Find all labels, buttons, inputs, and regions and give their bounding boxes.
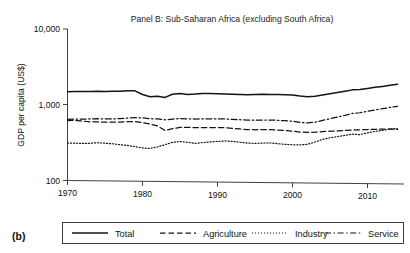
chart-legend: Total Agriculture Industry Service: [63, 223, 404, 244]
legend-label-agriculture: Agriculture: [203, 229, 247, 239]
x-tick-label-1980: 1980: [133, 189, 152, 199]
x-tick-label-2010: 2010: [358, 191, 377, 201]
x-axis-line: [68, 181, 405, 185]
y-axis-title: GDP per capita (US$): [16, 63, 26, 147]
x-tick-label-2000: 2000: [283, 190, 302, 200]
series-group: [68, 84, 398, 148]
y-tick-label-1000: 1,000: [38, 100, 60, 110]
series-line-industry: [68, 128, 398, 148]
figure-panel-b: Panel B: Sub-Saharan Africa (excluding S…: [0, 0, 410, 253]
panel-title: Panel B: Sub-Saharan Africa (excluding S…: [131, 14, 334, 24]
gdp-per-capita-chart: Panel B: Sub-Saharan Africa (excluding S…: [0, 0, 410, 253]
legend-label-service: Service: [368, 229, 399, 239]
y-tick-marks: [63, 29, 68, 181]
x-tick-label-1970: 1970: [58, 188, 77, 198]
y-tick-label-10000: 10,000: [34, 24, 61, 34]
figure-letter: (b): [12, 230, 25, 242]
series-line-service: [68, 106, 398, 123]
series-line-agriculture: [68, 120, 398, 132]
legend-label-total: Total: [115, 229, 134, 239]
x-tick-label-1990: 1990: [208, 190, 227, 200]
series-line-total: [68, 84, 398, 97]
legend-label-industry: Industry: [295, 229, 328, 239]
y-tick-label-100: 100: [46, 176, 61, 186]
